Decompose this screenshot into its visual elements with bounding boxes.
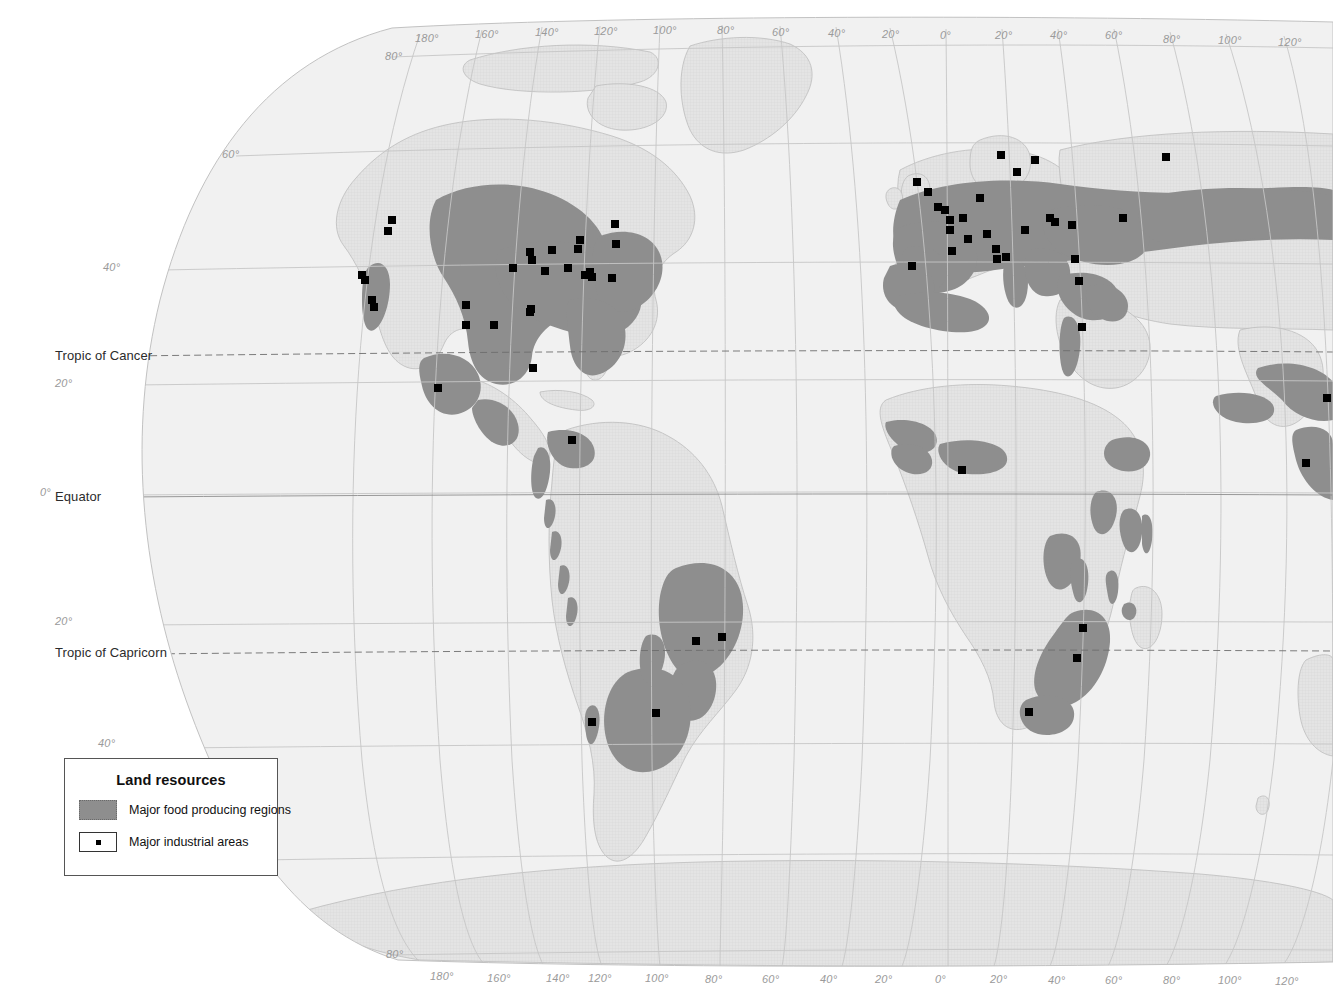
industrial-area-marker xyxy=(1075,277,1083,285)
industrial-area-marker xyxy=(384,227,392,235)
industrial-area-marker xyxy=(612,240,620,248)
industrial-area-marker xyxy=(1013,168,1021,176)
legend-label-food-regions: Major food producing regions xyxy=(129,803,291,817)
industrial-area-marker xyxy=(941,206,949,214)
industrial-area-swatch xyxy=(79,832,117,852)
industrial-area-marker xyxy=(964,235,972,243)
industrial-area-marker xyxy=(959,214,967,222)
industrial-area-marker xyxy=(692,637,700,645)
industrial-area-marker xyxy=(462,321,470,329)
industrial-area-marker xyxy=(528,256,536,264)
industrial-area-marker xyxy=(564,264,572,272)
industrial-area-marker xyxy=(368,296,376,304)
industrial-area-marker xyxy=(611,220,619,228)
industrial-area-marker xyxy=(718,633,726,641)
industrial-area-marker xyxy=(948,247,956,255)
industrial-area-marker xyxy=(361,276,369,284)
industrial-area-marker xyxy=(958,466,966,474)
industrial-area-marker xyxy=(652,709,660,717)
legend-item-food-regions: Major food producing regions xyxy=(65,800,277,820)
industrial-area-marker xyxy=(983,230,991,238)
industrial-area-marker xyxy=(548,246,556,254)
industrial-area-marker xyxy=(574,245,582,253)
industrial-area-marker xyxy=(588,718,596,726)
legend-label-industrial-areas: Major industrial areas xyxy=(129,835,249,849)
industrial-area-marker xyxy=(1051,218,1059,226)
industrial-area-marker xyxy=(370,303,378,311)
industrial-area-marker xyxy=(1078,323,1086,331)
industrial-area-marker xyxy=(976,194,984,202)
industrial-area-marker xyxy=(1025,708,1033,716)
world-map-screenshot: Tropic of CancerEquatorTropic of Caprico… xyxy=(0,0,1333,996)
industrial-area-marker xyxy=(529,364,537,372)
industrial-area-marker xyxy=(934,203,942,211)
industrial-area-marker xyxy=(924,188,932,196)
tropic-of-capricorn-label: Tropic of Capricorn xyxy=(55,645,167,660)
industrial-area-marker xyxy=(997,151,1005,159)
map-legend: Land resources Major food producing regi… xyxy=(64,758,278,876)
industrial-area-marker xyxy=(490,321,498,329)
industrial-area-marker xyxy=(1021,226,1029,234)
industrial-area-marker xyxy=(1323,394,1331,402)
industrial-area-marker xyxy=(1162,153,1170,161)
industrial-area-marker xyxy=(1073,654,1081,662)
food-region-asia-steppe xyxy=(1138,188,1333,245)
industrial-area-marker xyxy=(1068,221,1076,229)
legend-title: Land resources xyxy=(65,772,277,788)
industrial-area-marker xyxy=(526,248,534,256)
industrial-area-marker xyxy=(541,267,549,275)
industrial-area-marker xyxy=(1031,156,1039,164)
industrial-area-marker xyxy=(946,226,954,234)
industrial-area-marker xyxy=(388,216,396,224)
industrial-area-marker xyxy=(908,262,916,270)
industrial-area-marker xyxy=(434,384,442,392)
industrial-area-marker xyxy=(946,216,954,224)
industrial-area-marker xyxy=(992,245,1000,253)
food-region-swatch xyxy=(79,800,117,820)
equator-label: Equator xyxy=(55,489,101,504)
tropic-of-cancer-label: Tropic of Cancer xyxy=(55,348,152,363)
industrial-area-marker xyxy=(1302,459,1310,467)
industrial-area-marker xyxy=(608,274,616,282)
industrial-area-marker xyxy=(1079,624,1087,632)
industrial-area-marker xyxy=(1119,214,1127,222)
industrial-area-marker xyxy=(509,264,517,272)
industrial-area-marker xyxy=(1002,253,1010,261)
industrial-area-marker xyxy=(568,436,576,444)
industrial-area-marker xyxy=(576,236,584,244)
industrial-area-marker xyxy=(462,301,470,309)
industrial-area-marker xyxy=(588,273,596,281)
legend-item-industrial-areas: Major industrial areas xyxy=(65,832,277,852)
industrial-area-marker xyxy=(913,178,921,186)
industrial-area-marker xyxy=(993,255,1001,263)
landmass-baffin xyxy=(587,84,666,130)
industrial-area-marker xyxy=(1071,255,1079,263)
industrial-area-marker xyxy=(526,308,534,316)
